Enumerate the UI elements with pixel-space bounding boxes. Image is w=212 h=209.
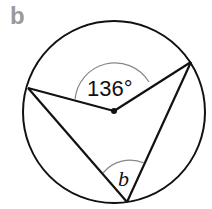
circle-theorem-diagram: 136° b <box>0 0 212 209</box>
chord-left <box>28 88 127 202</box>
center-point <box>111 108 117 114</box>
central-angle-label: 136° <box>87 76 133 101</box>
inscribed-angle-label: b <box>118 166 129 191</box>
